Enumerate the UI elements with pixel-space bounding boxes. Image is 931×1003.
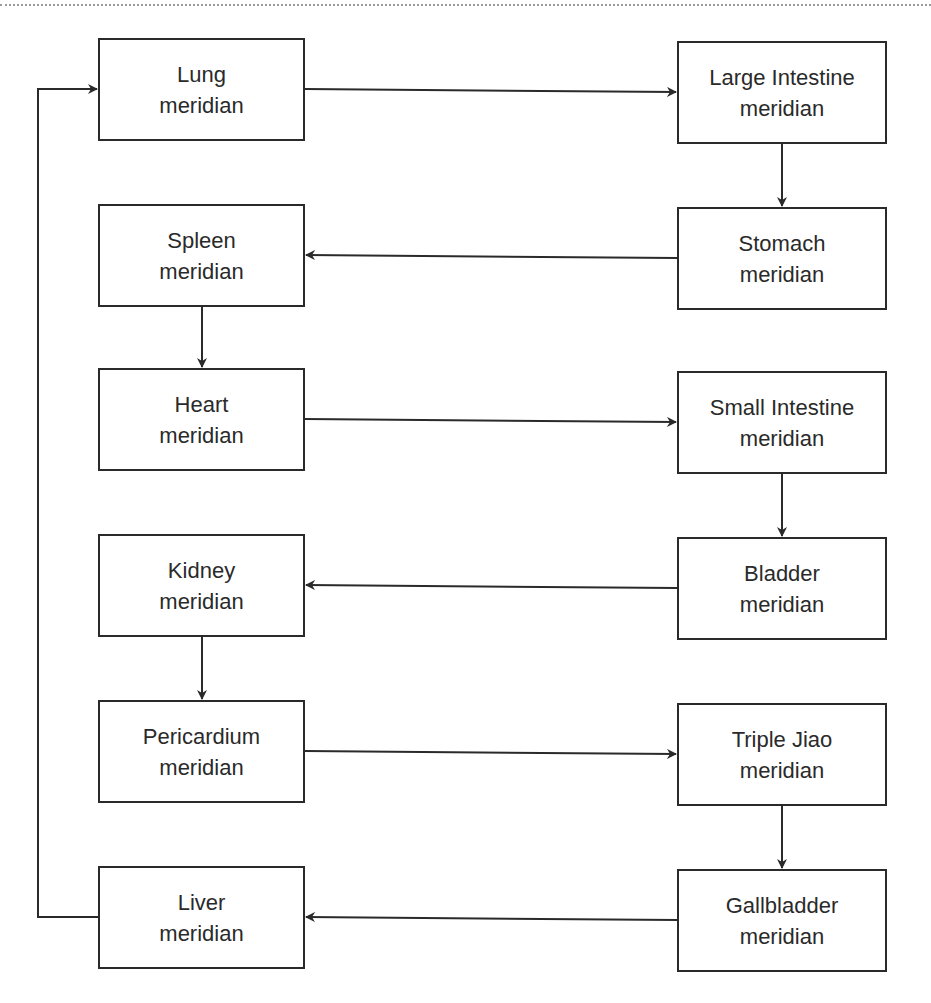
node-kidney-meridian: Kidney meridian bbox=[98, 534, 305, 637]
arrow-stomach-to-spleen bbox=[306, 255, 677, 258]
node-label-line2: meridian bbox=[159, 420, 243, 451]
arrow-liver-to-lung bbox=[38, 89, 98, 917]
node-label-line2: meridian bbox=[740, 755, 824, 786]
node-label-line2: meridian bbox=[159, 90, 243, 121]
arrow-heart-to-small-intestine bbox=[305, 419, 676, 422]
node-label-line1: Small Intestine bbox=[710, 392, 854, 423]
node-label-line2: meridian bbox=[159, 256, 243, 287]
node-heart-meridian: Heart meridian bbox=[98, 368, 305, 471]
node-lung-meridian: Lung meridian bbox=[98, 38, 305, 141]
node-triple-jiao-meridian: Triple Jiao meridian bbox=[677, 703, 887, 806]
node-label-line1: Heart bbox=[175, 389, 229, 420]
node-label-line1: Kidney bbox=[168, 555, 235, 586]
node-label-line1: Stomach bbox=[739, 228, 826, 259]
node-spleen-meridian: Spleen meridian bbox=[98, 204, 305, 307]
arrow-bladder-to-kidney bbox=[306, 585, 677, 588]
node-label-line1: Spleen bbox=[167, 225, 236, 256]
node-label-line1: Large Intestine bbox=[709, 62, 855, 93]
node-label-line2: meridian bbox=[159, 918, 243, 949]
node-label-line1: Gallbladder bbox=[726, 890, 839, 921]
node-small-intestine-meridian: Small Intestine meridian bbox=[677, 371, 887, 474]
arrow-pericardium-to-triple-jiao bbox=[305, 751, 676, 754]
node-label-line2: meridian bbox=[159, 752, 243, 783]
node-gallbladder-meridian: Gallbladder meridian bbox=[677, 869, 887, 972]
node-label-line1: Triple Jiao bbox=[732, 724, 833, 755]
connector-layer bbox=[0, 0, 931, 1003]
node-label-line2: meridian bbox=[740, 921, 824, 952]
node-label-line1: Liver bbox=[178, 887, 226, 918]
node-label-line2: meridian bbox=[740, 93, 824, 124]
node-label-line2: meridian bbox=[159, 586, 243, 617]
node-label-line2: meridian bbox=[740, 589, 824, 620]
node-label-line1: Bladder bbox=[744, 558, 820, 589]
node-liver-meridian: Liver meridian bbox=[98, 866, 305, 969]
node-label-line2: meridian bbox=[740, 259, 824, 290]
node-label-line2: meridian bbox=[740, 423, 824, 454]
node-large-intestine-meridian: Large Intestine meridian bbox=[677, 41, 887, 144]
node-pericardium-meridian: Pericardium meridian bbox=[98, 700, 305, 803]
node-label-line1: Lung bbox=[177, 59, 226, 90]
arrow-lung-to-large-intestine bbox=[305, 89, 676, 92]
node-bladder-meridian: Bladder meridian bbox=[677, 537, 887, 640]
arrow-gallbladder-to-liver bbox=[306, 917, 677, 920]
node-stomach-meridian: Stomach meridian bbox=[677, 207, 887, 310]
node-label-line1: Pericardium bbox=[143, 721, 260, 752]
